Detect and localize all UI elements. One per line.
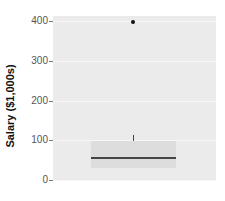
box-iqr xyxy=(91,141,176,168)
outlier-point xyxy=(131,20,135,24)
plot-panel xyxy=(53,16,216,181)
gridline-300 xyxy=(53,61,216,62)
y-tick-label-400: 400 xyxy=(31,16,48,26)
y-tick-label-200: 200 xyxy=(31,96,48,106)
gridline-0 xyxy=(53,180,216,181)
y-axis-label: Salary ($1,000s) xyxy=(4,61,20,151)
y-tick-label-300: 300 xyxy=(31,56,48,66)
gridline-200 xyxy=(53,101,216,102)
y-tick-label-100: 100 xyxy=(31,135,48,145)
median-line xyxy=(91,157,176,159)
y-tick-label-0: 0 xyxy=(42,175,48,185)
